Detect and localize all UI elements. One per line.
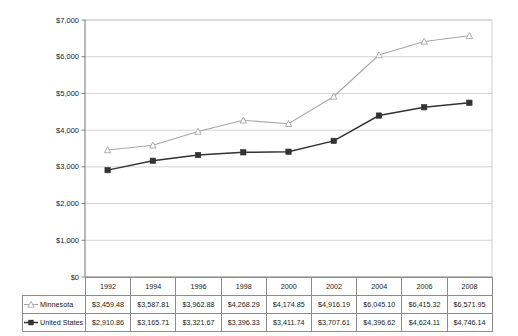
chart-axes bbox=[82, 20, 493, 277]
legend-label: Minnesota bbox=[40, 300, 73, 309]
data-point-marker bbox=[331, 138, 336, 143]
table-header-year-1992: 1992 bbox=[86, 278, 131, 296]
table-cell-value: $6,415.32 bbox=[402, 296, 447, 314]
chart-container: $0$1,000$2,000$3,000$4,000$5,000$6,000$7… bbox=[0, 0, 518, 336]
y-axis-tick-labels: $0$1,000$2,000$3,000$4,000$5,000$6,000$7… bbox=[56, 16, 79, 282]
data-point-marker bbox=[286, 149, 291, 154]
y-axis-tick-label: $7,000 bbox=[56, 16, 79, 25]
data-point-marker bbox=[467, 100, 472, 105]
y-axis-tick-label: $1,000 bbox=[56, 236, 79, 245]
legend-triangle-marker-icon bbox=[24, 300, 38, 309]
data-point-marker bbox=[150, 158, 155, 163]
table-body: Minnesota$3,459.48$3,587.81$3,962.88$4,2… bbox=[23, 296, 493, 332]
y-axis-tick-label: $6,000 bbox=[56, 52, 79, 61]
table-cell-value: $3,707.61 bbox=[311, 314, 356, 332]
table-cell-value: $4,268.29 bbox=[221, 296, 266, 314]
data-point-marker bbox=[421, 105, 426, 110]
chart-data-table: 199219941996199820002002200420062008 Min… bbox=[22, 277, 493, 332]
table-header-year-1994: 1994 bbox=[131, 278, 176, 296]
table-header-row: 199219941996199820002002200420062008 bbox=[23, 278, 493, 296]
table-header-year-1996: 1996 bbox=[176, 278, 221, 296]
chart-series bbox=[104, 33, 472, 173]
y-axis-tick-label: $3,000 bbox=[56, 162, 79, 171]
table-cell-value: $3,165.71 bbox=[131, 314, 176, 332]
table-cell-value: $4,624.11 bbox=[402, 314, 447, 332]
table-cell-value: $4,916.19 bbox=[311, 296, 356, 314]
table-header-year-2008: 2008 bbox=[447, 278, 492, 296]
plot-area: $0$1,000$2,000$3,000$4,000$5,000$6,000$7… bbox=[0, 0, 518, 285]
table-cell-value: $4,396.62 bbox=[357, 314, 402, 332]
table-header-year-1998: 1998 bbox=[221, 278, 266, 296]
table-cell-value: $3,321.67 bbox=[176, 314, 221, 332]
data-point-marker bbox=[105, 167, 110, 172]
data-point-marker bbox=[195, 152, 200, 157]
data-point-marker bbox=[241, 150, 246, 155]
table-cell-value: $2,910.86 bbox=[86, 314, 131, 332]
legend-label: United States bbox=[40, 318, 83, 327]
table-header-year-2004: 2004 bbox=[357, 278, 402, 296]
table-cell-value: $4,174.85 bbox=[266, 296, 311, 314]
legend-cell-minnesota: Minnesota bbox=[23, 296, 86, 314]
table-cell-value: $3,396.33 bbox=[221, 314, 266, 332]
table-cell-value: $3,587.81 bbox=[131, 296, 176, 314]
table-cell-value: $6,571.95 bbox=[447, 296, 492, 314]
chart-plot-svg: $0$1,000$2,000$3,000$4,000$5,000$6,000$7… bbox=[0, 0, 518, 285]
table-header-year-2000: 2000 bbox=[266, 278, 311, 296]
table-row: United States$2,910.86$3,165.71$3,321.67… bbox=[23, 314, 493, 332]
legend-square-marker-icon bbox=[24, 318, 38, 327]
table-cell-value: $3,962.88 bbox=[176, 296, 221, 314]
legend-cell-united-states: United States bbox=[23, 314, 86, 332]
table-cell-value: $4,746.14 bbox=[447, 314, 492, 332]
table-cell-value: $6,045.10 bbox=[357, 296, 402, 314]
table-cell-value: $3,411.74 bbox=[266, 314, 311, 332]
data-point-marker bbox=[376, 113, 381, 118]
gridlines bbox=[85, 20, 492, 277]
y-axis-tick-label: $4,000 bbox=[56, 126, 79, 135]
y-axis-tick-label: $5,000 bbox=[56, 89, 79, 98]
series-line-united-states bbox=[108, 103, 470, 170]
y-axis-tick-label: $2,000 bbox=[56, 199, 79, 208]
table-row: Minnesota$3,459.48$3,587.81$3,962.88$4,2… bbox=[23, 296, 493, 314]
table-header-year-2002: 2002 bbox=[311, 278, 356, 296]
series-line-minnesota bbox=[108, 36, 470, 150]
table-cell-value: $3,459.48 bbox=[86, 296, 131, 314]
table-corner-cell bbox=[23, 278, 86, 296]
table-header-year-2006: 2006 bbox=[402, 278, 447, 296]
